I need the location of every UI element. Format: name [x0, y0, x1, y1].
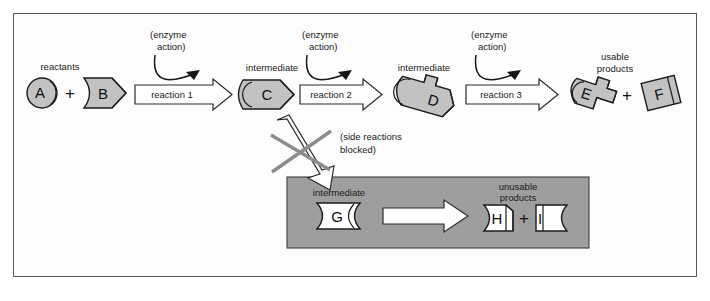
intermediate-g-label: intermediate: [313, 187, 365, 198]
reactants-label: reactants: [40, 61, 79, 72]
molecule-c-letter: C: [262, 86, 273, 103]
unusable-products-label-line1: unusable: [499, 181, 538, 192]
enzyme-action-2-arrowhead: [338, 70, 352, 80]
enzyme-action-1-line2: action): [157, 41, 186, 52]
molecule-h-letter: H: [492, 210, 503, 227]
enzyme-action-1-curve: [154, 55, 196, 80]
enzyme-action-2-curve: [306, 55, 348, 80]
reaction-3-label: reaction 3: [480, 89, 522, 100]
enzyme-action-1-line1: (enzyme: [150, 29, 186, 40]
enzyme-action-2-line1: (enzyme: [302, 29, 338, 40]
plus-products: +: [622, 86, 632, 105]
plus-unusable: +: [519, 209, 529, 228]
side-reactions-blocked-line1: (side reactions: [340, 131, 402, 142]
usable-products-label-line1: usable: [601, 51, 629, 62]
side-reactions-blocked-line2: blocked): [340, 144, 376, 155]
enzyme-action-3-line1: (enzyme: [471, 29, 507, 40]
enzyme-action-3-curve: [475, 55, 517, 80]
enzyme-action-1-arrowhead: [186, 70, 200, 80]
enzyme-action-3-line2: action): [478, 41, 507, 52]
enzyme-action-3-arrowhead: [507, 70, 521, 80]
molecule-i-letter: I: [538, 210, 542, 227]
unusable-products-label-line2: products: [500, 192, 537, 203]
figure-canvas: reactants A + B (enzyme action) reaction…: [0, 0, 710, 301]
molecule-e-group: E: [567, 70, 619, 114]
molecule-g-letter: G: [331, 208, 343, 225]
enzyme-action-2-line2: action): [309, 41, 338, 52]
molecule-a-letter: A: [35, 84, 45, 101]
pathway-diagram: reactants A + B (enzyme action) reaction…: [0, 0, 710, 301]
intermediate-c-label: intermediate: [246, 62, 298, 73]
reaction-1-label: reaction 1: [151, 89, 193, 100]
molecule-d-group: D: [390, 67, 460, 119]
usable-products-label-line2: products: [597, 63, 634, 74]
molecule-f-group: F: [641, 75, 681, 110]
plus-reactants: +: [65, 84, 75, 103]
reaction-2-label: reaction 2: [310, 89, 352, 100]
molecule-b-letter: B: [98, 85, 108, 102]
intermediate-d-label: intermediate: [398, 62, 450, 73]
